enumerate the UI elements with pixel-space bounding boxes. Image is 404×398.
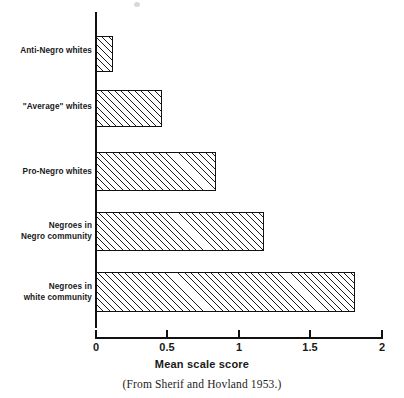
bar-anti-negro-whites	[96, 36, 113, 72]
bar-average-whites	[96, 90, 162, 127]
x-axis-tick-label-1: 1	[236, 341, 242, 353]
source-caption: (From Sherif and Hovland 1953.)	[0, 378, 404, 390]
bar-negroes-in-negro-community	[96, 212, 264, 251]
x-axis-tick-1	[238, 330, 240, 337]
x-axis-tick-label-0: 0	[93, 341, 99, 353]
x-axis-tick-label-2: 2	[379, 341, 385, 353]
bar-chart-figure: Anti-Negro whites "Average" whites Pro-N…	[0, 0, 404, 398]
x-axis-tick-0-5	[166, 330, 168, 337]
bar-pro-negro-whites	[96, 152, 216, 191]
x-axis-tick-label-1-5: 1.5	[302, 341, 317, 353]
plot-area: 0 0.5 1 1.5 2	[0, 0, 404, 398]
x-axis-line	[95, 337, 383, 339]
bar-negroes-in-white-community	[96, 272, 355, 312]
x-axis-tick-2	[381, 330, 383, 337]
x-axis-tick-label-0-5: 0.5	[159, 341, 174, 353]
x-axis-tick-1-5	[309, 330, 311, 337]
x-axis-tick-0	[95, 330, 97, 337]
x-axis-title: Mean scale score	[10, 358, 394, 370]
